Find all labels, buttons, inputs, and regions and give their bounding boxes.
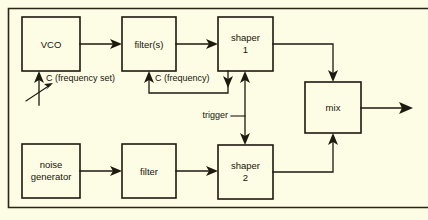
noise-generator-label-line1: noise xyxy=(40,159,63,170)
block-shaper-1: shaper 1 xyxy=(218,17,273,71)
shaper2-label-line1: shaper xyxy=(231,160,260,171)
block-vco: VCO xyxy=(22,17,80,71)
label-trigger: trigger xyxy=(202,110,228,120)
wire-shaper2-to-mix xyxy=(273,133,338,172)
shaper1-label-line1: shaper xyxy=(231,32,260,43)
label-c-frequency: C (frequency) xyxy=(155,73,210,83)
noise-generator-label-line2: generator xyxy=(31,171,72,182)
block-mix: mix xyxy=(305,82,361,133)
block-filter: filter xyxy=(122,144,176,198)
arrowhead-variable-control xyxy=(44,83,53,90)
filters-label: filter(s) xyxy=(134,39,163,50)
wire-noise-to-filter xyxy=(80,166,122,176)
shaper1-label-line2: 1 xyxy=(243,44,248,55)
block-noise-generator: noise generator xyxy=(22,144,80,198)
mix-label: mix xyxy=(326,102,341,113)
wire-mix-output xyxy=(361,102,413,114)
wire-shaper1-to-mix xyxy=(273,44,338,82)
block-diagram: VCO filter(s) shaper 1 mix noise generat… xyxy=(0,0,428,220)
wire-filter-to-shaper2 xyxy=(176,166,218,176)
label-c-frequency-set: C (frequency set) xyxy=(46,73,115,83)
wire-vco-to-filters xyxy=(80,39,122,49)
variable-control-slash xyxy=(26,85,50,101)
vco-label: VCO xyxy=(41,39,62,50)
wire-trigger xyxy=(231,71,250,145)
shaper2-label-line2: 2 xyxy=(243,172,248,183)
filter-label: filter xyxy=(140,166,158,177)
block-shaper-2: shaper 2 xyxy=(218,145,273,199)
block-filters: filter(s) xyxy=(122,17,176,71)
wire-filters-to-shaper1 xyxy=(176,39,218,49)
diagram-canvas: VCO filter(s) shaper 1 mix noise generat… xyxy=(0,0,428,220)
